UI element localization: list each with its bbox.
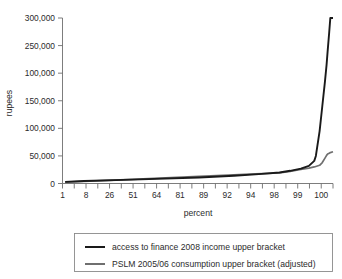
x-tick-label: 92 — [222, 190, 232, 200]
x-tick-label: 98 — [270, 190, 280, 200]
x-tick-label: 81 — [175, 190, 185, 200]
chart-canvas: 300,000250,000100,000150,000100,00050,00… — [0, 0, 342, 279]
x-tick-label: 64 — [152, 190, 162, 200]
x-axis-title: percent — [184, 208, 213, 218]
y-tick-label: 150,000 — [25, 96, 56, 106]
legend-label-1: access to finance 2008 income upper brac… — [112, 242, 286, 252]
x-tick-label: 51 — [128, 190, 138, 200]
x-tick-label: 26 — [105, 190, 115, 200]
y-tick-label: 300,000 — [25, 13, 56, 23]
line-chart-figure: 300,000250,000100,000150,000100,00050,00… — [0, 0, 342, 279]
y-tick-label: 50,000 — [29, 151, 55, 161]
y-axis-title: rupees — [4, 90, 14, 116]
y-tick-label: 100,000 — [25, 68, 56, 78]
legend-label-2: PSLM 2005/06 consumption upper bracket (… — [112, 259, 316, 269]
y-tick-label: 250,000 — [25, 41, 56, 51]
x-tick-label: 1 — [60, 190, 65, 200]
x-tick-label: 94 — [246, 190, 256, 200]
y-tick-label: 0 — [50, 179, 55, 189]
x-tick-label: 99 — [293, 190, 303, 200]
y-tick-label: 100,000 — [25, 123, 56, 133]
x-tick-label: 89 — [199, 190, 209, 200]
x-tick-label: 100 — [314, 190, 328, 200]
x-tick-label: 8 — [84, 190, 89, 200]
legend: access to finance 2008 income upper brac… — [75, 234, 333, 272]
